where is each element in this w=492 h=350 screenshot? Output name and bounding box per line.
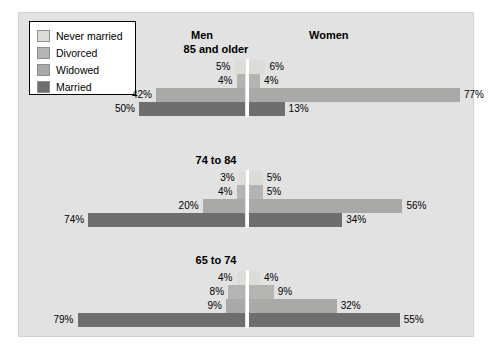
bar-row: 74%34% bbox=[19, 213, 473, 227]
bar-value-women: 4% bbox=[264, 74, 278, 88]
bar-women bbox=[249, 199, 402, 213]
bar-value-women: 9% bbox=[278, 285, 292, 299]
bar-men bbox=[237, 74, 245, 88]
bar-men bbox=[226, 299, 245, 313]
column-header-men: Men bbox=[191, 29, 213, 41]
column-header-women: Women bbox=[309, 29, 349, 41]
bar-women bbox=[249, 88, 460, 102]
bar-value-women: 5% bbox=[267, 171, 281, 185]
bar-value-men: 4% bbox=[193, 185, 233, 199]
bar-value-men: 20% bbox=[159, 199, 199, 213]
bar-row: 5%6% bbox=[19, 60, 473, 74]
bar-men bbox=[228, 285, 245, 299]
bar-women bbox=[249, 60, 265, 74]
bar-men bbox=[156, 88, 245, 102]
bar-row: 79%55% bbox=[19, 313, 473, 327]
bar-women bbox=[249, 213, 342, 227]
bar-value-men: 79% bbox=[34, 313, 74, 327]
bar-value-men: 8% bbox=[184, 285, 224, 299]
bar-women bbox=[249, 285, 274, 299]
bar-men bbox=[139, 102, 245, 116]
bar-value-men: 5% bbox=[190, 60, 230, 74]
bar-row: 20%56% bbox=[19, 199, 473, 213]
bar-women bbox=[249, 271, 260, 285]
bar-value-men: 42% bbox=[112, 88, 152, 102]
bar-row: 8%9% bbox=[19, 285, 473, 299]
legend-swatch-never-married bbox=[37, 30, 50, 42]
bar-row: 4%4% bbox=[19, 271, 473, 285]
bar-row: 9%32% bbox=[19, 299, 473, 313]
age-group-title: 74 to 84 bbox=[19, 154, 473, 166]
bar-women bbox=[249, 171, 263, 185]
bar-row: 50%13% bbox=[19, 102, 473, 116]
bar-women bbox=[249, 74, 260, 88]
bar-men bbox=[234, 60, 245, 74]
bar-value-women: 4% bbox=[264, 271, 278, 285]
bar-value-men: 74% bbox=[44, 213, 84, 227]
bar-value-men: 50% bbox=[95, 102, 135, 116]
bar-value-men: 3% bbox=[195, 171, 235, 185]
age-group-title: 85 and older bbox=[19, 43, 473, 55]
bar-value-women: 32% bbox=[341, 299, 361, 313]
bar-row: 4%4% bbox=[19, 74, 473, 88]
bar-value-men: 4% bbox=[193, 74, 233, 88]
bar-men bbox=[237, 185, 245, 199]
bar-women bbox=[249, 313, 400, 327]
legend-item: Never married bbox=[37, 27, 135, 44]
bar-value-women: 34% bbox=[346, 213, 366, 227]
bar-men bbox=[239, 171, 245, 185]
bar-women bbox=[249, 102, 285, 116]
bar-row: 4%5% bbox=[19, 185, 473, 199]
bar-men bbox=[78, 313, 245, 327]
bar-women bbox=[249, 299, 337, 313]
bar-value-women: 5% bbox=[267, 185, 281, 199]
bar-row: 3%5% bbox=[19, 171, 473, 185]
age-group-title: 65 to 74 bbox=[19, 254, 473, 266]
bar-value-women: 56% bbox=[406, 199, 426, 213]
bar-value-men: 9% bbox=[182, 299, 222, 313]
bar-value-women: 6% bbox=[269, 60, 283, 74]
bar-women bbox=[249, 185, 263, 199]
chart-frame: Never married Divorced Widowed Married M… bbox=[18, 12, 474, 337]
bar-row: 42%77% bbox=[19, 88, 473, 102]
bar-value-women: 77% bbox=[464, 88, 484, 102]
bar-value-men: 4% bbox=[193, 271, 233, 285]
bar-men bbox=[237, 271, 245, 285]
bar-value-women: 55% bbox=[404, 313, 424, 327]
bar-value-women: 13% bbox=[289, 102, 309, 116]
bar-men bbox=[203, 199, 245, 213]
legend-label-never-married: Never married bbox=[56, 30, 123, 42]
bar-men bbox=[88, 213, 245, 227]
